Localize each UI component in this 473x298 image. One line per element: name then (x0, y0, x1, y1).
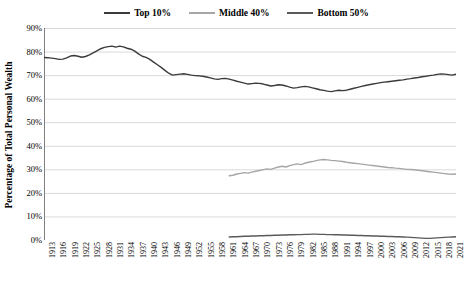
x-tick-label: 2006 (400, 242, 409, 258)
wealth-share-chart: Top 10% Middle 40% Bottom 50% Percentage… (0, 0, 473, 298)
x-tick-label: 1925 (93, 242, 102, 258)
x-tick-label: 1964 (241, 242, 250, 258)
x-tick-label: 1997 (366, 242, 375, 258)
x-tick-label: 1988 (331, 242, 340, 258)
legend-swatch-top10 (104, 12, 130, 14)
x-tick-label: 1952 (195, 242, 204, 258)
x-tick-label: 1928 (105, 242, 114, 258)
x-tick-label: 1922 (82, 242, 91, 258)
plot-area (44, 28, 456, 240)
y-tick-label: 10% (2, 211, 42, 221)
x-tick-label: 2009 (411, 242, 420, 258)
y-tick-label: 80% (2, 47, 42, 57)
x-tick-label: 1985 (320, 242, 329, 258)
x-tick-label: 1931 (116, 242, 125, 258)
x-tick-label: 1940 (150, 242, 159, 258)
legend-item-middle40: Middle 40% (189, 8, 269, 18)
x-tick-label: 1979 (297, 242, 306, 258)
x-tick-label: 2021 (456, 242, 465, 258)
x-tick-label: 1913 (48, 242, 57, 258)
plot-svg (44, 28, 456, 240)
x-tick-label: 2018 (445, 242, 454, 258)
x-tick-label: 1994 (354, 242, 363, 258)
x-tick-label: 1967 (252, 242, 261, 258)
y-tick-label: 40% (2, 141, 42, 151)
y-tick-label: 0% (2, 235, 42, 245)
legend-swatch-bottom50 (287, 12, 313, 14)
x-tick-label: 1937 (139, 242, 148, 258)
x-tick-label: 1955 (207, 242, 216, 258)
y-tick-label: 60% (2, 94, 42, 104)
x-tick-label: 1943 (161, 242, 170, 258)
x-tick-label: 1973 (275, 242, 284, 258)
x-tick-label: 1970 (263, 242, 272, 258)
x-tick-label: 1961 (229, 242, 238, 258)
legend-item-top10: Top 10% (104, 8, 171, 18)
legend-item-bottom50: Bottom 50% (287, 8, 368, 18)
series-line-middle40 (229, 159, 456, 175)
x-tick-label: 1934 (127, 242, 136, 258)
y-axis-tick-labels: 0%10%20%30%40%50%60%70%80%90% (0, 28, 42, 240)
y-tick-label: 20% (2, 188, 42, 198)
y-tick-label: 90% (2, 23, 42, 33)
chart-legend: Top 10% Middle 40% Bottom 50% (0, 8, 473, 18)
series-line-top10 (44, 46, 456, 91)
x-tick-label: 1991 (343, 242, 352, 258)
series-line-bottom50 (229, 234, 456, 238)
x-tick-label: 1946 (173, 242, 182, 258)
y-tick-label: 70% (2, 70, 42, 80)
legend-label-middle40: Middle 40% (219, 8, 269, 18)
x-tick-label: 1919 (71, 242, 80, 258)
x-tick-label: 2000 (377, 242, 386, 258)
legend-label-top10: Top 10% (134, 8, 171, 18)
x-tick-label: 1958 (218, 242, 227, 258)
x-tick-label: 1949 (184, 242, 193, 258)
x-tick-label: 1982 (309, 242, 318, 258)
y-tick-label: 50% (2, 117, 42, 127)
x-axis-tick-labels: 1913191619191922192519281931193419371940… (44, 242, 456, 294)
x-tick-label: 2012 (422, 242, 431, 258)
y-tick-label: 30% (2, 164, 42, 174)
x-tick-label: 2015 (434, 242, 443, 258)
x-tick-label: 2003 (388, 242, 397, 258)
x-tick-label: 1976 (286, 242, 295, 258)
legend-label-bottom50: Bottom 50% (317, 8, 368, 18)
legend-swatch-middle40 (189, 12, 215, 14)
x-tick-label: 1916 (59, 242, 68, 258)
